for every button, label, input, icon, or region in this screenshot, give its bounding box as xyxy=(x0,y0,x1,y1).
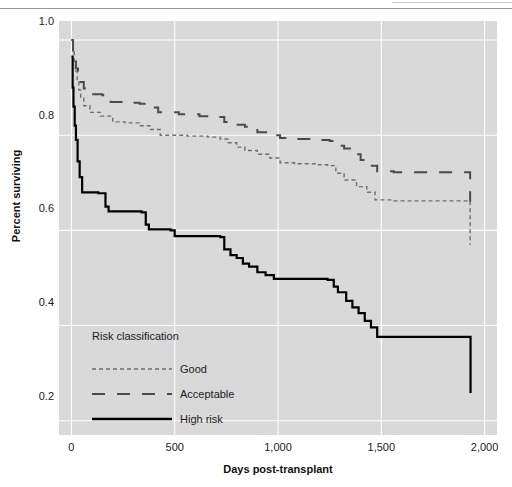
y-tick-label: 0.4 xyxy=(18,297,54,308)
x-axis-ticks: 05001,0001,5002,000 xyxy=(59,441,497,457)
curve-good xyxy=(71,40,470,245)
x-tick-label: 0 xyxy=(68,441,74,453)
y-tick-label: 0.2 xyxy=(18,391,54,402)
x-tick-label: 500 xyxy=(166,441,184,453)
header-rule xyxy=(0,8,512,9)
legend-item-good[interactable]: Good xyxy=(92,356,272,381)
x-tick-label: 1,000 xyxy=(264,441,292,453)
chart-legend: Risk classification Good Acceptable High… xyxy=(92,330,272,431)
x-tick-label: 2,000 xyxy=(471,441,499,453)
legend-swatch-good xyxy=(92,363,172,375)
legend-label-high-risk: High risk xyxy=(172,413,223,425)
legend-label-acceptable: Acceptable xyxy=(172,388,234,400)
figure-container: 1.0 0.8 0.6 0.4 0.2 Percent surviving 05… xyxy=(0,0,512,487)
y-axis-title-holder: Percent surviving xyxy=(0,0,1,1)
legend-item-acceptable[interactable]: Acceptable xyxy=(92,381,272,406)
legend-title: Risk classification xyxy=(92,330,272,342)
y-tick-label: 1.0 xyxy=(18,16,54,27)
curve-acceptable xyxy=(71,40,470,202)
legend-swatch-acceptable xyxy=(92,388,172,400)
legend-label-good: Good xyxy=(172,363,207,375)
y-tick-label: 0.6 xyxy=(18,203,54,214)
legend-item-high-risk[interactable]: High risk xyxy=(92,406,272,431)
x-tick-label: 1,500 xyxy=(368,441,396,453)
y-tick-label: 0.8 xyxy=(18,110,54,121)
x-axis-title: Days post-transplant xyxy=(59,463,497,475)
header-rule-secondary xyxy=(392,2,512,3)
legend-swatch-high-risk xyxy=(92,413,172,425)
y-axis-title: Percent surviving xyxy=(10,136,22,256)
